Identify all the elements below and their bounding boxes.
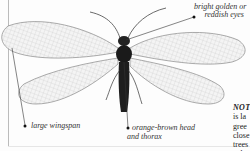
note-line-4: trees: [233, 140, 250, 149]
note-line-2: gree: [233, 122, 250, 131]
head-callout-line1: orange-brown head: [132, 124, 195, 132]
field-guide-page: bright golden or reddish eyes large wing…: [0, 0, 250, 151]
head-callout-line2: and thorax: [127, 133, 195, 141]
note-heading: NOT: [233, 103, 250, 112]
note-line-5: oaks: [233, 149, 250, 151]
note-line-3: close: [233, 131, 250, 140]
wingspan-callout: large wingspan: [31, 122, 80, 130]
side-note: NOT is la gree close trees oaks: [233, 103, 250, 151]
head-thorax-callout: orange-brown head and thorax: [132, 124, 195, 141]
note-line-1: is la: [233, 112, 250, 121]
eyes-callout-line2: reddish eyes: [202, 11, 246, 19]
eyes-callout: bright golden or reddish eyes: [194, 3, 246, 19]
